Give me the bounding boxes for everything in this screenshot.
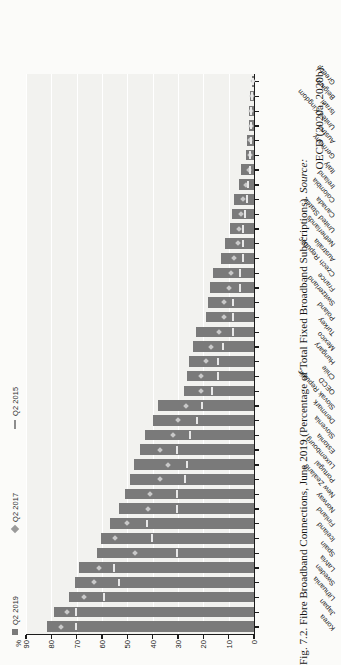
marker-q2-2015 (232, 328, 234, 336)
x-tick-mark (255, 391, 259, 392)
marker-q2-2015 (250, 137, 252, 145)
x-tick-mark (255, 612, 259, 613)
rotated-figure-wrapper: Q2 2019Q2 2017Q2 2015 % 0102030405060708… (0, 0, 341, 665)
x-tick-mark (255, 538, 259, 539)
bar-group (26, 253, 254, 264)
y-tick-10: 10 (224, 640, 233, 648)
bar-portugal (130, 474, 254, 485)
bar-group (26, 445, 254, 456)
bar-group (26, 489, 254, 500)
marker-q2-2015 (250, 107, 252, 115)
x-tick-mark (255, 170, 259, 171)
x-tick-mark (255, 435, 259, 436)
y-tick-mark (51, 635, 52, 639)
x-tick-mark (255, 597, 259, 598)
y-tick-mark (127, 635, 128, 639)
marker-q2-2015 (239, 269, 241, 277)
marker-q2-2015 (75, 623, 77, 631)
marker-q2-2015 (201, 402, 203, 410)
bar-group (26, 400, 254, 411)
marker-q2-2015 (242, 225, 244, 233)
bar-norway (119, 503, 254, 514)
bar-korea (47, 621, 254, 632)
legend-label: Q2 2017 (11, 493, 20, 522)
y-tick-70: 70 (72, 640, 81, 648)
x-tick-mark (255, 405, 259, 406)
x-tick-mark (255, 508, 259, 509)
x-tick-mark (255, 258, 259, 259)
x-tick-mark (255, 479, 259, 480)
bar-group (26, 194, 254, 205)
bar-japan (54, 607, 254, 618)
x-tick-mark (255, 376, 259, 377)
legend-swatch-filled-square-icon (12, 629, 18, 635)
x-tick-mark (255, 184, 259, 185)
bar-group (26, 474, 254, 485)
bar-sweden (75, 577, 254, 588)
y-tick-60: 60 (98, 640, 107, 648)
bar-group (26, 621, 254, 632)
bar-latvia (79, 562, 254, 573)
y-tick-50: 50 (123, 640, 132, 648)
bar-group (26, 562, 254, 573)
bar-group (26, 282, 254, 293)
marker-q2-2015 (146, 520, 148, 528)
bar-poland (206, 312, 254, 323)
y-tick-40: 40 (148, 640, 157, 648)
legend-item-q2-2017: Q2 2017 (11, 493, 20, 532)
bar-group (26, 548, 254, 559)
y-tick-0: 0 (250, 640, 259, 644)
bar-group (26, 356, 254, 367)
bar-turkey (196, 327, 254, 338)
marker-q2-2015 (103, 593, 105, 601)
bar-slovak-republic (158, 400, 254, 411)
y-tick-mark (76, 635, 77, 639)
y-tick-30: 30 (174, 640, 183, 648)
bar-lithuania (69, 592, 254, 603)
bar-group (26, 150, 254, 161)
bar-denmark (153, 415, 254, 426)
y-tick-mark (101, 635, 102, 639)
marker-q2-2015 (232, 313, 234, 321)
marker-q2-2015 (217, 372, 219, 380)
marker-q2-2015 (252, 78, 254, 86)
marker-q2-2015 (222, 343, 224, 351)
marker-q2-2015 (176, 446, 178, 454)
x-tick-mark (255, 553, 259, 554)
bar-group (26, 533, 254, 544)
marker-q2-2015 (251, 92, 253, 100)
marker-q2-2015 (242, 240, 244, 248)
bar-group (26, 415, 254, 426)
bar-group (26, 592, 254, 603)
x-tick-mark (255, 273, 259, 274)
y-tick-mark (177, 635, 178, 639)
bar-group (26, 135, 254, 146)
marker-q2-2015 (250, 122, 252, 130)
chart-legend: Q2 2019Q2 2017Q2 2015 (2, 75, 28, 635)
y-tick-mark (152, 635, 153, 639)
x-tick-mark (255, 302, 259, 303)
marker-q2-2015 (232, 299, 234, 307)
bar-australia (221, 253, 254, 264)
bar-group (26, 120, 254, 131)
figure-caption: Fig. 7.2.Fibre Broadband Connections, Ju… (296, 5, 328, 665)
legend-item-q2-2015: Q2 2015 (11, 387, 20, 429)
x-tick-mark (255, 523, 259, 524)
y-axis-tick-marks (26, 635, 254, 639)
chart-area: Q2 2019Q2 2017Q2 2015 % 0102030405060708… (0, 67, 290, 665)
x-tick-mark (255, 420, 259, 421)
x-tick-mark (255, 567, 259, 568)
marker-q2-2015 (176, 490, 178, 498)
marker-q2-2015 (189, 431, 191, 439)
x-tick-mark (255, 111, 259, 112)
marker-q2-2015 (75, 608, 77, 616)
bar-group (26, 518, 254, 529)
bar-group (26, 607, 254, 618)
bar-group (26, 238, 254, 249)
bar-group (26, 577, 254, 588)
x-tick-mark (255, 361, 259, 362)
bar-group (26, 503, 254, 514)
bar-group (26, 312, 254, 323)
x-tick-mark (255, 96, 259, 97)
bar-group (26, 430, 254, 441)
